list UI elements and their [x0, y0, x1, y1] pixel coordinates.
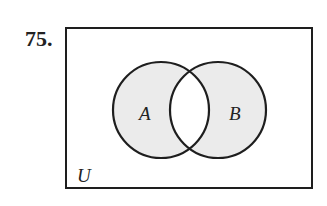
venn-diagram: A B U — [0, 0, 327, 206]
set-b-label: B — [229, 103, 241, 124]
universe-label: U — [77, 165, 92, 186]
set-a-label: A — [137, 103, 151, 124]
